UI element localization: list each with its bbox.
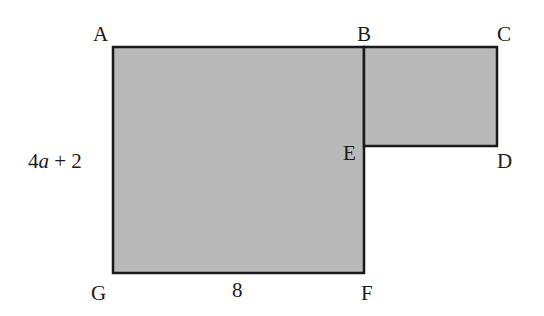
side-label-gf: 8: [232, 278, 243, 302]
small-rectangle-BCDE: [364, 47, 497, 146]
point-label-c: C: [497, 22, 511, 46]
point-label-e: E: [343, 141, 356, 165]
point-label-d: D: [497, 149, 512, 173]
point-label-f: F: [361, 281, 373, 305]
point-label-g: G: [91, 281, 106, 305]
point-label-b: B: [357, 22, 371, 46]
point-label-a: A: [93, 22, 109, 46]
side-label-ag: 4a + 2: [28, 149, 82, 173]
composite-rectangle-figure: A B C D E F G 4a + 2 8: [0, 0, 544, 316]
large-rectangle-ABFG: [113, 47, 364, 273]
